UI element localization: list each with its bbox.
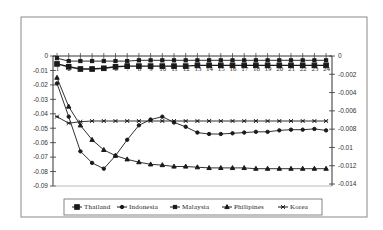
data-point-marker: [67, 59, 70, 62]
data-point-marker: [230, 63, 235, 68]
data-point-marker: [208, 59, 211, 62]
data-point-marker: [184, 125, 187, 128]
data-point-marker: [325, 59, 328, 62]
data-point-marker: [324, 129, 327, 132]
data-point-marker: [172, 59, 175, 62]
data-point-marker: [102, 66, 107, 71]
data-point-marker: [312, 63, 317, 68]
data-point-marker: [149, 59, 152, 62]
data-point-marker: [301, 59, 304, 62]
y-tick-label: 0: [44, 52, 48, 59]
y2-tick-label: -0.014: [338, 180, 357, 187]
y-tick-label: -0.09: [33, 182, 48, 189]
y-tick-label: -0.08: [33, 168, 48, 175]
y-tick-label: -0.02: [33, 81, 48, 88]
data-point-marker: [160, 64, 165, 69]
data-point-marker: [90, 161, 93, 164]
data-point-marker: [219, 63, 224, 68]
data-point-marker: [289, 59, 292, 62]
y2-tick-label: -0.008: [338, 125, 357, 132]
data-point-marker: [161, 115, 164, 118]
legend: ThailandIndonesiaMalaysiaPhilipinesKorea: [64, 199, 322, 215]
data-point-marker: [125, 64, 130, 69]
y-tick-label: -0.07: [33, 153, 48, 160]
data-point-marker: [289, 63, 294, 68]
y2-tick-label: -0.002: [338, 71, 357, 78]
data-point-marker: [207, 132, 210, 135]
line-chart: 0-0.01-0.02-0.03-0.04-0.05-0.06-0.07-0.0…: [0, 0, 383, 230]
chart-frame: [21, 17, 367, 217]
data-point-marker: [173, 205, 176, 208]
data-point-marker: [266, 130, 269, 133]
data-point-marker: [289, 128, 292, 131]
data-point-marker: [301, 128, 304, 131]
y2-tick-label: 0: [338, 52, 342, 59]
data-point-marker: [126, 138, 129, 141]
data-point-marker: [137, 59, 140, 62]
data-point-marker: [78, 67, 83, 72]
y-tick-label: -0.06: [33, 139, 48, 146]
data-point-marker: [324, 63, 329, 68]
data-point-marker: [90, 67, 95, 72]
data-point-marker: [172, 64, 177, 69]
data-point-marker: [231, 132, 234, 135]
data-point-marker: [102, 167, 105, 170]
data-point-marker: [300, 63, 305, 68]
data-point-marker: [55, 82, 58, 85]
data-point-marker: [231, 59, 234, 62]
data-point-marker: [66, 65, 71, 70]
data-point-marker: [254, 59, 257, 62]
data-point-marker: [265, 63, 270, 68]
data-point-marker: [278, 59, 281, 62]
data-point-marker: [195, 63, 200, 68]
data-point-marker: [91, 59, 94, 62]
y-tick-label: -0.01: [33, 67, 48, 74]
data-point-marker: [243, 131, 246, 134]
data-point-marker: [184, 59, 187, 62]
data-point-marker: [102, 59, 105, 62]
data-point-marker: [196, 59, 199, 62]
data-point-marker: [278, 129, 281, 132]
y2-tick-label: -0.01: [338, 144, 353, 151]
data-point-marker: [79, 59, 82, 62]
data-point-marker: [196, 131, 199, 134]
legend-label: Thailand: [84, 203, 111, 211]
data-point-marker: [137, 124, 140, 127]
data-point-marker: [114, 59, 117, 62]
y-tick-label: -0.05: [33, 125, 48, 132]
data-point-marker: [219, 132, 222, 135]
data-point-marker: [254, 130, 257, 133]
legend-label: Philipines: [234, 203, 264, 211]
y-tick-label: -0.04: [33, 110, 48, 117]
data-point-marker: [313, 59, 316, 62]
y-tick-label: -0.03: [33, 96, 48, 103]
y2-tick-label: -0.006: [338, 107, 357, 114]
y2-tick-label: -0.004: [338, 89, 357, 96]
data-point-marker: [313, 127, 316, 130]
y2-tick-label: -0.012: [338, 162, 357, 169]
data-point-marker: [207, 63, 212, 68]
data-point-marker: [79, 150, 82, 153]
data-point-marker: [120, 205, 123, 208]
data-point-marker: [75, 205, 80, 210]
data-point-marker: [67, 115, 70, 118]
legend-label: Indonesia: [129, 203, 159, 211]
data-point-marker: [242, 63, 247, 68]
data-point-marker: [266, 59, 269, 62]
data-point-marker: [55, 62, 60, 67]
data-point-marker: [161, 59, 164, 62]
legend-label: Malaysia: [182, 203, 210, 211]
data-point-marker: [55, 57, 58, 60]
data-point-marker: [277, 63, 282, 68]
data-point-marker: [254, 63, 259, 68]
legend-label: Korea: [290, 203, 309, 211]
data-point-marker: [219, 59, 222, 62]
data-point-marker: [113, 65, 118, 70]
data-point-marker: [243, 59, 246, 62]
data-point-marker: [183, 64, 188, 69]
data-point-marker: [148, 64, 153, 69]
data-point-marker: [126, 59, 129, 62]
data-point-marker: [137, 64, 142, 69]
